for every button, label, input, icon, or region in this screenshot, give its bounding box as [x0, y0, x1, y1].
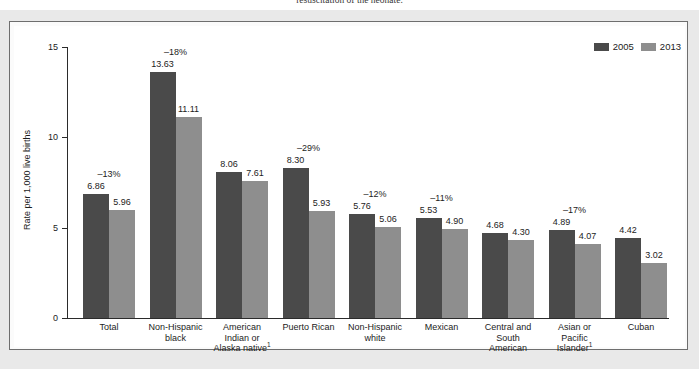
- x-axis-category-label: Asian orPacificIslander1: [539, 322, 611, 354]
- bar-value-2005: 4.42: [611, 226, 645, 235]
- x-axis-category-label: Central andSouthAmerican: [472, 322, 544, 354]
- percent-change-label: –29%: [283, 144, 335, 153]
- bar-value-2005: 6.86: [79, 182, 113, 191]
- bar-value-2013: 7.61: [238, 169, 272, 178]
- legend-label-2005: 2005: [613, 41, 634, 52]
- y-axis-tick: [62, 137, 68, 138]
- bar-2005[interactable]: [83, 194, 109, 318]
- y-axis-tick-label: 10: [30, 133, 58, 142]
- y-axis-tick: [62, 318, 68, 319]
- bar-2013[interactable]: [309, 211, 335, 318]
- bar-2013[interactable]: [442, 229, 468, 318]
- bar-value-2005: 5.53: [412, 206, 446, 215]
- bar-2005[interactable]: [349, 214, 375, 318]
- bar-value-2013: 4.07: [571, 232, 605, 241]
- bar-2005[interactable]: [216, 172, 242, 318]
- bar-2013[interactable]: [508, 240, 534, 318]
- percent-change-label: –18%: [150, 48, 202, 57]
- x-axis-category-label: AmericanIndian orAlaska native1: [206, 322, 278, 354]
- bar-pair: [482, 233, 534, 318]
- legend-entry-2005: 2005: [594, 41, 634, 52]
- bar-pair: [549, 230, 601, 318]
- legend-swatch-2005: [594, 43, 609, 51]
- y-axis-tick: [62, 228, 68, 229]
- bar-pair: [216, 172, 268, 318]
- bar-2005[interactable]: [283, 168, 309, 318]
- bar-value-2013: 4.30: [504, 228, 538, 237]
- bar-2013[interactable]: [176, 117, 202, 318]
- x-axis-category-label: Non-Hispanicwhite: [339, 322, 411, 343]
- bar-value-2013: 5.96: [105, 198, 139, 207]
- bar-value-2013: 3.02: [637, 251, 671, 260]
- bar-2005[interactable]: [482, 233, 508, 318]
- x-axis-category-label: Mexican: [406, 322, 478, 333]
- bar-value-2005: 4.89: [545, 218, 579, 227]
- bar-value-2013: 5.06: [371, 215, 405, 224]
- percent-change-label: –12%: [349, 190, 401, 199]
- legend-entry-2013: 2013: [641, 41, 681, 52]
- percent-change-label: –17%: [549, 206, 601, 215]
- legend-swatch-2013: [641, 43, 656, 51]
- bar-chart: Rate per 1,000 live births 051015 2005 2…: [0, 0, 699, 369]
- bar-2005[interactable]: [416, 218, 442, 318]
- bar-2013[interactable]: [375, 227, 401, 318]
- bar-pair: [349, 214, 401, 318]
- bar-value-2005: 5.76: [345, 202, 379, 211]
- x-axis-category-label: Puerto Rican: [273, 322, 345, 333]
- percent-change-label: –11%: [416, 194, 468, 203]
- x-axis-line: [67, 318, 669, 319]
- bar-value-2005: 8.30: [279, 156, 313, 165]
- chart-legend: 2005 2013: [594, 41, 681, 52]
- bar-2005[interactable]: [549, 230, 575, 318]
- x-axis-category-label: Total: [73, 322, 145, 333]
- legend-label-2013: 2013: [660, 41, 681, 52]
- bar-value-2013: 4.90: [438, 217, 472, 226]
- bar-value-2013: 5.93: [305, 199, 339, 208]
- bar-2013[interactable]: [242, 181, 268, 318]
- percent-change-label: –13%: [83, 170, 135, 179]
- y-axis-tick-label: 0: [30, 314, 58, 323]
- bar-2005[interactable]: [615, 238, 641, 318]
- x-axis-category-label: Non-Hispanicblack: [140, 322, 212, 343]
- bar-2013[interactable]: [109, 210, 135, 318]
- bar-pair: [283, 168, 335, 318]
- bar-pair: [83, 194, 135, 318]
- x-axis-category-label: Cuban: [605, 322, 677, 333]
- bar-value-2013: 11.11: [172, 105, 206, 114]
- bar-pair: [416, 218, 468, 318]
- y-axis-tick-label: 5: [30, 224, 58, 233]
- y-axis-tick: [62, 47, 68, 48]
- bar-2013[interactable]: [575, 244, 601, 318]
- bar-value-2005: 13.63: [146, 60, 180, 69]
- y-axis-line: [67, 47, 68, 319]
- bar-2013[interactable]: [641, 263, 667, 318]
- y-axis-tick-label: 15: [30, 43, 58, 52]
